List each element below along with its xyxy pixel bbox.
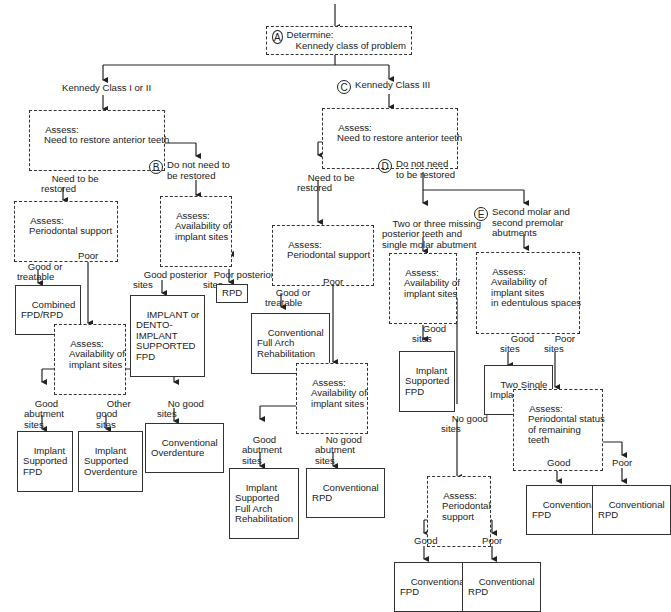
assess-implant-sites-b: Assess:Availability ofimplant sites <box>160 196 232 267</box>
label-line: sites <box>24 419 44 430</box>
label-line: Need to be <box>52 173 99 184</box>
result-line: Supported <box>23 455 67 466</box>
result-line: RPD <box>598 509 618 520</box>
assess-anterior-left: Assess:Need to restore anterior teeth <box>29 110 165 171</box>
result-line: IMPLANT or <box>147 309 200 320</box>
assess-detail: support <box>433 512 485 523</box>
kennedy-class-1-2-label: Kennedy Class I or II <box>62 83 151 94</box>
assess-detail: Availability of <box>395 278 451 289</box>
result-line: Rehabilitation <box>257 348 315 359</box>
poor-left-label: Poor <box>78 251 98 262</box>
assess-line: Assess: <box>405 267 439 278</box>
result-implant-or-dento-implant-fpd: IMPLANT orDENTO-IMPLANTSUPPORTEDFPD <box>130 295 205 377</box>
assess-line: Assess: <box>492 266 526 277</box>
result-line: Conventional <box>411 576 467 587</box>
good-sites-e-label: Goodsites <box>500 323 534 365</box>
b-do-not-need-restore-label: B Do not need tobe restored <box>149 160 230 181</box>
label-line: Good posterior <box>144 269 207 280</box>
label-line: treatable <box>17 271 54 282</box>
result-line: FPD <box>23 466 42 477</box>
assess-detail: Need to restore anterior teeth <box>35 135 159 146</box>
assess-line: Assess: <box>45 124 79 135</box>
assess-line: Assess: <box>312 377 346 388</box>
assess-detail: Availability of <box>302 388 362 399</box>
assess-implant-sites-e: Assess:Availability ofimplant sitesin ed… <box>476 252 580 334</box>
result-line: Supported <box>405 375 449 386</box>
assess-detail: implant sites <box>395 289 451 300</box>
letter-d-badge: D <box>378 159 392 173</box>
root-line1: Determine: <box>287 29 334 40</box>
label-line: No good <box>326 434 362 445</box>
poor-right-label: Poor <box>323 277 343 288</box>
result-line: Full Arch <box>235 503 272 514</box>
no-good-sites-d-label: No goodsites <box>441 403 488 445</box>
need-restore-left-label: Need to berestored <box>41 163 99 205</box>
result-line: FPD <box>532 509 551 520</box>
assess-line: Assess: <box>443 490 477 501</box>
result-conventional-overdenture: ConventionalOverdenture <box>145 423 224 473</box>
poor-e-label: Poor <box>612 458 632 469</box>
assess-detail: Availability of <box>482 277 574 288</box>
result-line: Conventional <box>479 576 535 587</box>
letter-b-badge: B <box>149 160 163 174</box>
assess-detail: implant sites <box>60 360 120 371</box>
assess-detail: Periodontal <box>433 501 485 512</box>
result-conventional-rpd-bottom: ConventionalRPD <box>462 562 541 612</box>
result-line: Full Arch <box>257 337 294 348</box>
result-implant-supported-overdenture: ImplantSupportedOverdenture <box>78 431 143 492</box>
result-line: Combined <box>32 299 76 310</box>
d-do-not-need-restore-label: D Do not needto be restored <box>378 159 455 180</box>
result-rpd: RPD <box>216 284 248 303</box>
kennedy-class-3-title: Kennedy Class III <box>355 80 430 91</box>
good-e-label: Good <box>547 458 570 469</box>
label-line: good <box>96 408 117 419</box>
label-line: Poor <box>555 333 575 344</box>
assess-line: Assess: <box>30 215 64 226</box>
label-line: abutment <box>24 408 64 419</box>
assess-detail: Availability of <box>166 221 226 232</box>
label-line: sites <box>441 423 461 434</box>
label-line: sites <box>242 455 262 466</box>
letter-a-badge: A <box>272 30 283 44</box>
result-line: FPD <box>405 386 424 397</box>
letter-e-badge: E <box>474 207 488 221</box>
label-line: No good <box>452 413 488 424</box>
label-line: sites <box>412 333 432 344</box>
result-line: Rehabilitation <box>235 513 293 524</box>
assess-implant-sites-left-poor: Assess:Availability ofimplant sites <box>54 324 126 395</box>
result-line: Implant <box>95 445 126 456</box>
result-line: SUPPORTED <box>136 340 196 351</box>
root-determine-kennedy-class: A Determine:Kennedy class of problem <box>266 26 412 55</box>
label-line: Good <box>511 333 534 344</box>
result-implant-supported-full-arch: ImplantSupportedFull ArchRehabilitation <box>229 468 299 539</box>
label-line: sites <box>133 279 153 290</box>
assess-detail: implant sites <box>166 232 226 243</box>
label-line: Do not need to <box>167 159 230 170</box>
result-line: Two Single <box>501 379 548 390</box>
assess-detail: Periodontal support <box>278 250 368 261</box>
result-line: FPD <box>136 351 155 362</box>
label-line: restored <box>41 183 76 194</box>
label-line: Two or three missing <box>393 218 482 229</box>
good-sites-d-label: Goodsites <box>412 313 446 355</box>
assess-line: Assess: <box>176 210 210 221</box>
label-line: single molar abutment <box>382 239 476 250</box>
label-line: second premolar <box>492 217 563 228</box>
label-line: Good <box>423 323 446 334</box>
result-line: Conventional <box>268 327 324 338</box>
label-line: posterior teeth and <box>382 228 462 239</box>
poor-sites-e-label: Poorsites <box>544 323 575 365</box>
assess-detail: in edentulous spaces <box>482 298 574 309</box>
good-bottom-label: Good <box>414 536 437 547</box>
label-line: sites <box>96 419 116 430</box>
assess-detail: Need to restore anterior teeth <box>328 133 452 144</box>
result-line: Supported <box>84 455 128 466</box>
label-line: to be restored <box>396 169 455 180</box>
result-line: Implant <box>416 365 447 376</box>
result-line: Overdenture <box>84 466 137 477</box>
label-line: treatable <box>265 297 302 308</box>
result-line: Implant <box>246 482 277 493</box>
label-line: sites <box>157 408 177 419</box>
result-conventional-rpd-right: ConventionalRPD <box>306 468 385 518</box>
result-line: RPD <box>468 586 488 597</box>
